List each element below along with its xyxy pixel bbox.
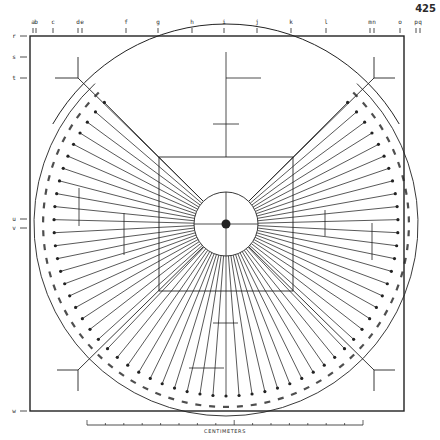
band-numeral-mark — [327, 372, 333, 377]
band-numeral-mark — [84, 102, 90, 108]
spoke-dot — [173, 387, 176, 390]
band-numeral-mark — [68, 124, 73, 130]
spoke-dot — [393, 257, 396, 260]
spoke-line — [82, 242, 199, 319]
top-tick-marks: abcdefghijklmnopq — [31, 18, 422, 33]
spoke-line — [258, 220, 398, 224]
band-numeral-mark — [407, 230, 410, 236]
spoke-dot — [387, 167, 390, 170]
band-numeral-mark — [42, 216, 44, 222]
spoke-dot — [63, 282, 66, 285]
top-tick-label: l — [324, 18, 328, 25]
band-numeral-mark — [376, 322, 381, 328]
spoke-dot — [106, 347, 109, 350]
spoke-dot — [59, 270, 62, 273]
left-tick-label: v — [12, 224, 16, 231]
spoke-dot — [312, 371, 315, 374]
left-tick-label: w — [12, 407, 16, 414]
scale-caption: CENTIMETERS — [204, 428, 246, 434]
band-numeral-mark — [97, 354, 103, 360]
spoke-line — [258, 226, 398, 233]
spoke-line — [58, 230, 195, 258]
band-numeral-mark — [404, 189, 407, 195]
band-numeral-mark — [359, 344, 365, 350]
band-numeral-mark — [87, 344, 93, 350]
left-tick-label: r — [12, 32, 16, 39]
band-numeral-mark — [264, 400, 270, 403]
spoke-line — [253, 242, 370, 319]
spoke-dot — [391, 179, 394, 182]
left-tick-label: s — [12, 53, 16, 60]
spoke-dot — [250, 392, 253, 395]
spoke-line — [244, 250, 324, 365]
spoke-line — [255, 156, 384, 211]
band-numeral-mark — [79, 333, 84, 339]
left-tick-marks: rstuvw — [12, 32, 27, 414]
spoke-dot — [66, 155, 69, 158]
spoke-dot — [55, 192, 58, 195]
center-dot — [222, 220, 231, 229]
band-numeral-mark — [52, 284, 56, 290]
spoke-dot — [370, 131, 373, 134]
spoke-line — [68, 156, 197, 211]
spoke-dot — [381, 294, 384, 297]
spoke-line — [246, 249, 334, 358]
spoke-line — [236, 255, 278, 389]
band-numeral-mark — [64, 310, 69, 316]
spoke-dot — [396, 218, 399, 221]
band-numeral-mark — [316, 379, 322, 384]
band-numeral-mark — [406, 244, 409, 250]
spoke-line — [257, 230, 394, 258]
spoke-dot — [126, 364, 129, 367]
spoke-dot — [323, 364, 326, 367]
band-numeral-mark — [407, 202, 410, 208]
spoke-line — [70, 237, 197, 295]
spoke-dot — [94, 110, 97, 113]
band-numeral-mark — [251, 403, 257, 406]
band-numeral-mark — [130, 379, 136, 384]
spoke-line — [258, 207, 397, 221]
diagram-canvas: 425 abcdefghijklmnopq rstuvw CENTIMETERS — [0, 0, 440, 440]
band-numeral-mark — [400, 271, 404, 277]
spoke-line — [117, 249, 205, 358]
spoke-dot — [237, 394, 240, 397]
inner-circle — [194, 192, 258, 256]
top-tick-label: c — [51, 18, 55, 25]
spoke-line — [90, 244, 201, 330]
spoke-line — [98, 245, 202, 339]
top-tick-label: q — [418, 18, 422, 26]
spoke-dot — [224, 394, 227, 397]
spoke-line — [253, 133, 372, 207]
band-numeral-mark — [44, 189, 47, 195]
band-numeral-mark — [390, 297, 395, 303]
band-numeral-mark — [142, 386, 148, 391]
band-numeral-mark — [379, 124, 384, 130]
band-numeral-mark — [56, 149, 60, 155]
band-numeral-mark — [62, 136, 67, 142]
band-numeral-mark — [48, 271, 52, 277]
spoke-dot — [382, 155, 385, 158]
left-tick-label: u — [12, 215, 16, 222]
spoke-line — [255, 237, 382, 295]
spoke-dot — [343, 347, 346, 350]
spoke-dot — [88, 328, 91, 331]
band-numeral-mark — [209, 405, 215, 408]
band-numeral-mark — [168, 397, 174, 401]
spoke-line — [251, 244, 362, 330]
band-numeral-mark — [397, 162, 401, 168]
spoke-dot — [53, 231, 56, 234]
band-numeral-mark — [349, 354, 355, 360]
band-numeral-mark — [155, 392, 161, 396]
spoke-dot — [386, 282, 389, 285]
spoke-dot — [116, 356, 119, 359]
band-numeral-mark — [278, 397, 284, 401]
spoke-line — [95, 112, 201, 203]
band-numeral-mark — [339, 363, 345, 368]
band-numeral-mark — [408, 216, 410, 222]
spoke-dot — [276, 387, 279, 390]
spoke-line — [55, 207, 194, 221]
spoke-dot — [62, 167, 65, 170]
band-numeral-mark — [107, 363, 113, 368]
spoke-dot — [346, 101, 349, 104]
spoke-dot — [74, 306, 77, 309]
